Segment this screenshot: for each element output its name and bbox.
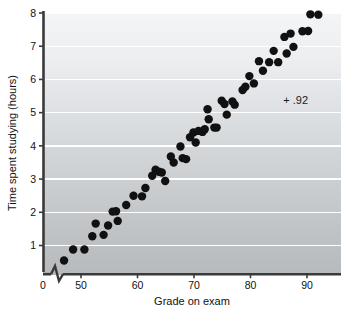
y-axis-tick-labels: 12345678	[30, 7, 36, 252]
x-tick-label: 80	[245, 279, 257, 291]
data-point	[129, 191, 137, 199]
x-axis-title: Grade on exam	[154, 295, 230, 307]
data-point	[80, 245, 88, 253]
chart-canvas: 12345678 05060708090 Grade on exam Time …	[0, 0, 352, 318]
data-point	[203, 105, 211, 113]
data-point	[306, 10, 314, 18]
data-point	[201, 125, 209, 133]
y-tick-label: 7	[30, 40, 36, 52]
data-point	[112, 207, 120, 215]
data-point	[91, 219, 99, 227]
data-point	[286, 29, 294, 37]
y-tick-label: 8	[30, 7, 36, 19]
correlation-annotation: + .92	[283, 94, 308, 106]
data-point	[169, 158, 177, 166]
data-point	[176, 142, 184, 150]
x-tick-label: 0	[40, 279, 46, 291]
data-point	[212, 123, 220, 131]
data-point	[191, 138, 199, 146]
y-tick-label: 3	[30, 173, 36, 185]
data-point	[230, 100, 238, 108]
y-tick-label: 1	[30, 239, 36, 251]
data-point	[138, 192, 146, 200]
data-point	[220, 100, 228, 108]
data-point	[141, 184, 149, 192]
x-tick-label: 60	[132, 279, 144, 291]
data-point	[204, 115, 212, 123]
data-point	[265, 58, 273, 66]
data-point	[223, 110, 231, 118]
y-tick-label: 4	[30, 140, 36, 152]
data-point	[282, 49, 290, 57]
x-tick-label: 50	[75, 279, 87, 291]
data-point	[88, 232, 96, 240]
data-point	[158, 168, 166, 176]
data-point	[114, 217, 122, 225]
data-point	[250, 79, 258, 87]
data-point	[314, 10, 322, 18]
data-point	[255, 57, 263, 65]
data-point	[245, 72, 253, 80]
y-axis-title: Time spent studying (hours)	[6, 75, 18, 211]
x-tick-label: 90	[301, 279, 313, 291]
x-tick-label: 70	[188, 279, 200, 291]
y-tick-label: 6	[30, 73, 36, 85]
data-point	[104, 221, 112, 229]
data-point	[60, 256, 68, 264]
y-tick-label: 2	[30, 206, 36, 218]
data-point	[161, 177, 169, 185]
data-point	[269, 47, 277, 55]
data-point	[69, 245, 77, 253]
data-point	[122, 201, 130, 209]
data-point	[304, 27, 312, 35]
scatter-plot-figure: 12345678 05060708090 Grade on exam Time …	[0, 0, 352, 318]
data-point	[289, 43, 297, 51]
x-axis-tick-labels: 05060708090	[40, 279, 313, 291]
annotation-group: + .92	[283, 94, 308, 106]
data-point	[259, 67, 267, 75]
data-point	[99, 231, 107, 239]
data-point	[274, 58, 282, 66]
data-point	[182, 155, 190, 163]
y-tick-label: 5	[30, 106, 36, 118]
data-point	[241, 83, 249, 91]
